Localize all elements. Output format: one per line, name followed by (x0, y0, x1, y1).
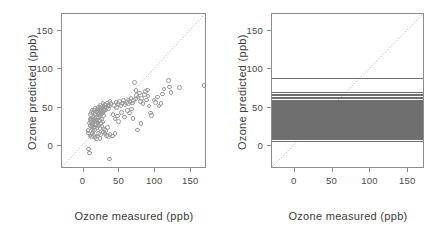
y-axis-title-left: Ozone predicted (ppb) (26, 34, 38, 150)
identity-reference-line (272, 14, 423, 167)
scatter-point (135, 128, 140, 133)
prediction-hline (272, 108, 423, 109)
scatter-point (167, 85, 172, 90)
x-tick-mark (407, 168, 408, 172)
scatter-point (137, 91, 142, 96)
prediction-hline (272, 124, 423, 125)
scatter-point (113, 131, 118, 136)
scatter-point (139, 121, 144, 126)
prediction-hline (272, 116, 423, 117)
scatter-point (160, 92, 165, 97)
prediction-hline (272, 133, 423, 134)
prediction-hline (272, 101, 423, 102)
x-tick-mark (190, 168, 191, 172)
prediction-hline (272, 130, 423, 131)
scatter-point (144, 98, 149, 103)
prediction-hline (272, 107, 423, 108)
prediction-hline (272, 115, 423, 116)
prediction-hline (272, 129, 423, 130)
scatter-point (169, 90, 174, 95)
prediction-hline (272, 132, 423, 133)
scatter-point (149, 113, 154, 118)
scatter-point (132, 80, 137, 85)
ozone-prediction-figure: 050100150 050100150 Ozone predicted (ppb… (0, 0, 447, 228)
scatter-point (162, 87, 167, 92)
x-tick-label: 150 (399, 175, 415, 186)
prediction-hline (272, 97, 423, 98)
scatter-point (131, 116, 136, 121)
y-tick-mark (57, 30, 61, 31)
scatter-point (119, 110, 124, 115)
scatter-point (129, 107, 134, 112)
x-axis-title-left: Ozone measured (ppb) (74, 210, 193, 222)
prediction-hline (272, 137, 423, 138)
x-tick-label: 0 (291, 175, 296, 186)
x-tick-mark (118, 168, 119, 172)
scatter-point (166, 78, 171, 83)
scatter-point (107, 157, 112, 162)
prediction-hline (272, 121, 423, 122)
prediction-hline (272, 114, 423, 115)
x-tick-label: 100 (146, 175, 162, 186)
prediction-hline (272, 128, 423, 129)
x-tick-mark (83, 168, 84, 172)
x-tick-label: 0 (80, 175, 85, 186)
y-tick-mark (267, 107, 271, 108)
prediction-hline (272, 92, 423, 93)
scatter-point (127, 111, 132, 116)
x-tick-mark (154, 168, 155, 172)
y-tick-mark (57, 107, 61, 108)
prediction-hline (272, 109, 423, 110)
scatter-point (146, 94, 151, 99)
prediction-hline (272, 131, 423, 132)
scatter-point (101, 120, 106, 125)
x-tick-label: 100 (361, 175, 377, 186)
prediction-hline (272, 113, 423, 114)
x-tick-mark (332, 168, 333, 172)
x-tick-mark (294, 168, 295, 172)
y-tick-mark (267, 68, 271, 69)
y-tick-mark (267, 145, 271, 146)
prediction-hline (272, 134, 423, 135)
prediction-hline (272, 135, 423, 136)
prediction-hline (272, 120, 423, 121)
scatter-point (202, 83, 206, 88)
scatter-point (147, 104, 152, 109)
scatter-point (177, 85, 182, 90)
x-tick-label: 50 (113, 175, 124, 186)
prediction-hline (272, 110, 423, 111)
x-tick-label: 50 (326, 175, 337, 186)
scatter-point (122, 115, 127, 120)
y-tick-mark (57, 68, 61, 69)
scatter-point (141, 101, 146, 106)
prediction-hline (272, 98, 423, 99)
scatter-point (155, 95, 160, 100)
scatter-point (116, 119, 121, 124)
prediction-hline (272, 117, 423, 118)
prediction-hline (272, 125, 423, 126)
prediction-hline (272, 139, 423, 140)
x-axis-title-right: Ozone measured (ppb) (288, 210, 407, 222)
prediction-hline (272, 141, 423, 142)
prediction-hline (272, 105, 423, 106)
prediction-hline (272, 138, 423, 139)
prediction-hline (272, 103, 423, 104)
scatter-point (105, 125, 110, 130)
prediction-hline (272, 118, 423, 119)
panel-rug: 050100150 050100150 Ozone predicted (ppb… (223, 0, 446, 228)
prediction-hline (272, 111, 423, 112)
panel-scatter: 050100150 050100150 Ozone predicted (ppb… (0, 0, 223, 228)
prediction-hline (272, 78, 423, 79)
scatter-point (145, 88, 150, 93)
prediction-hline (272, 94, 423, 95)
prediction-hline (272, 126, 423, 127)
prediction-hline (272, 112, 423, 113)
prediction-hline (272, 95, 423, 96)
scatter-point (87, 151, 92, 156)
prediction-hline (272, 123, 423, 124)
y-tick-mark (267, 30, 271, 31)
x-tick-mark (369, 168, 370, 172)
y-axis-title-right: Ozone predicted (ppb) (236, 34, 248, 150)
prediction-hline (272, 119, 423, 120)
prediction-hline (272, 122, 423, 123)
